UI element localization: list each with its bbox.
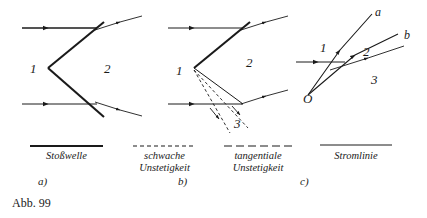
figure-caption: Abb. 99 xyxy=(12,196,51,211)
panel-b-sublabel: b) xyxy=(178,176,187,187)
panel-b-weak-discontinuity-arrow-2 xyxy=(232,106,240,115)
panel-c-ray-label-b: b xyxy=(404,29,410,41)
legend-label-stosswelle: Stoßwelle xyxy=(30,150,103,162)
legend-label-schwache-unstetigkeit: schwache Unstetigkeit xyxy=(128,150,201,174)
panel-b-region-label-1: 1 xyxy=(176,64,183,77)
panel-a-drawing xyxy=(22,16,142,117)
panel-a-sublabel: a) xyxy=(38,176,47,187)
panel-b-deflected-streamline-lower xyxy=(241,90,288,104)
panel-a-region-label-2: 2 xyxy=(104,62,111,75)
panel-c-drawing xyxy=(296,14,404,95)
legend-label-tangentiale-unstetigkeit: tangentiale Unstetigkeit xyxy=(221,150,295,174)
figure-abb-99: 1 2 a) 1 2 3 b) 1 2 3 a b O c) Stoßwelle… xyxy=(0,0,427,218)
legend-label-stromlinie: Stromlinie xyxy=(320,150,392,162)
panel-c-region-label-2: 2 xyxy=(363,45,370,58)
panel-b-weak-discontinuity-1 xyxy=(194,70,230,133)
panel-a-shock-lower xyxy=(48,68,104,117)
panel-c-region-label-3: 3 xyxy=(371,73,378,86)
panel-a-shock-upper xyxy=(48,22,104,68)
panel-c-origin-label: O xyxy=(303,92,312,105)
panel-c-sublabel: c) xyxy=(300,176,309,187)
panel-b-shock-upper xyxy=(194,22,250,68)
panel-c-region-label-1: 1 xyxy=(320,41,327,54)
legend-key-lines xyxy=(30,145,392,146)
panel-c-ray-label-a: a xyxy=(375,6,381,18)
panel-b-region-label-3: 3 xyxy=(234,117,241,130)
figure-drawing xyxy=(0,0,427,218)
panel-b-region-label-2: 2 xyxy=(246,56,253,69)
panel-b-weak-discontinuity-arrow-1 xyxy=(210,108,219,119)
panel-b-tangential-discontinuity xyxy=(194,68,243,104)
panel-b-drawing xyxy=(168,16,288,133)
panel-a-region-label-1: 1 xyxy=(30,62,37,75)
